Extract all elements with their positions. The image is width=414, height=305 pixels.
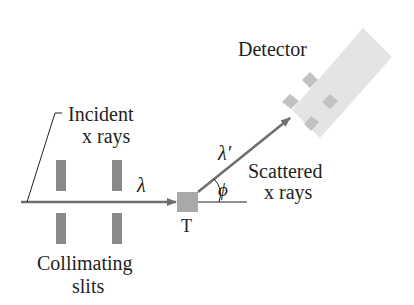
slit-upper-left [56,160,66,191]
target-label: T [181,216,192,236]
slit-upper-right [112,160,122,191]
lambda-label: λ [136,174,146,196]
compton-diagram: Detector Incident x rays Collimating sli… [0,0,414,305]
slit-lower-right [112,213,122,244]
detector-label: Detector [238,38,307,60]
target-block [177,192,198,212]
slit-lower-left [56,213,66,244]
scattered-label-line2: x rays [264,181,313,204]
lambda-prime-label: λ′ [217,142,232,164]
collimating-label-line2: slits [72,275,104,297]
collimating-label-line1: Collimating [37,252,133,275]
incident-label-line2: x rays [82,125,131,148]
incident-label-line1: Incident [68,103,134,125]
phi-label: ϕ [218,179,228,200]
scattered-label-line1: Scattered [248,160,322,182]
